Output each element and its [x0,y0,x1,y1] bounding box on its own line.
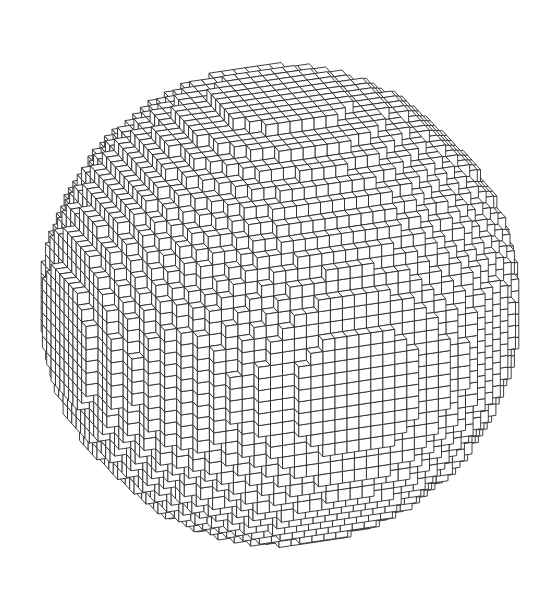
voxel-face [311,398,323,412]
voxel-face [278,474,290,487]
voxel-face [281,252,293,265]
voxel-face [410,279,422,292]
voxel-face [342,458,354,471]
voxel-face [111,361,123,374]
voxel-face [86,371,98,385]
voxel-face [359,403,371,417]
voxel-face [221,308,233,322]
voxel-face [241,253,253,266]
voxel-face [128,422,140,435]
voxel-face [409,216,421,230]
voxel-face [193,307,205,320]
voxel-face [233,295,245,308]
voxel-face [209,333,221,346]
voxel-face [438,339,450,352]
voxel-face [371,378,383,391]
voxel-face [310,254,322,268]
voxel-face [362,485,374,498]
voxel-face [201,486,213,499]
voxel-face [226,453,238,467]
voxel-face [97,225,109,239]
voxel-face [230,388,242,401]
voxel-face [378,290,390,304]
voxel-face [350,277,362,290]
voxel-face [257,256,269,269]
voxel-face [115,268,127,281]
voxel-face [383,388,395,402]
voxel-face [283,397,295,410]
voxel-face [299,423,311,437]
voxel-face [257,268,269,282]
voxel-face [271,364,283,378]
voxel-face [212,200,224,214]
voxel-face [306,452,318,465]
voxel-face [330,460,342,473]
voxel-face [335,348,347,361]
voxel-face [197,440,209,453]
voxel-face [280,189,292,203]
voxel-face [271,352,283,365]
voxel-face [242,444,254,457]
voxel-face [407,349,419,362]
voxel-face [257,501,269,514]
voxel-face [323,350,335,364]
voxel-face [165,364,177,378]
voxel-face [201,265,213,278]
voxel-face [86,360,98,373]
voxel-face [353,230,365,244]
voxel-face [458,354,470,367]
voxel-face [323,373,335,387]
voxel-face [398,281,410,294]
voxel-face [374,273,386,286]
voxel-face [461,272,473,286]
voxel-face [197,393,209,406]
voxel-face [383,341,395,355]
voxel-face [250,309,262,323]
voxel-face [466,324,478,338]
voxel-face [370,245,382,258]
voxel-face [245,281,257,294]
voxel-face [335,406,347,420]
voxel-face [197,370,209,383]
voxel-face [201,277,213,291]
voxel-face [263,147,275,160]
voxel-face [430,271,442,285]
voxel-face [271,399,283,412]
voxel-face [168,270,180,284]
voxel-face [318,322,330,335]
voxel-face [119,284,131,298]
voxel-face [152,267,164,281]
voxel-face [213,496,225,510]
voxel-face [362,275,374,288]
voxel-face [414,319,426,333]
voxel-face [165,352,177,365]
voxel-face [390,451,402,464]
voxel-face [196,248,208,262]
voxel-face [254,337,266,351]
voxel-face [278,299,290,312]
voxel-face [165,340,177,354]
voxel-face [264,186,276,200]
voxel-face [346,248,358,261]
voxel-face [259,366,271,380]
voxel-face [132,357,144,371]
voxel-face [335,430,347,444]
voxel-face [228,203,240,217]
voxel-face [165,422,177,435]
voxel-face [311,422,323,436]
voxel-face [242,339,254,353]
voxel-face [232,220,244,233]
voxel-face [323,420,335,433]
voxel-face [213,252,225,266]
voxel-face [383,364,395,378]
voxel-face [250,120,262,133]
voxel-face [398,468,410,481]
voxel-face [271,445,283,458]
voxel-face [342,470,354,483]
voxel-face [458,365,470,378]
voxel-face [242,409,254,423]
voxel-face [311,433,323,446]
voxel-face [234,145,246,158]
voxel-face [271,168,283,182]
voxel-face [274,271,286,285]
